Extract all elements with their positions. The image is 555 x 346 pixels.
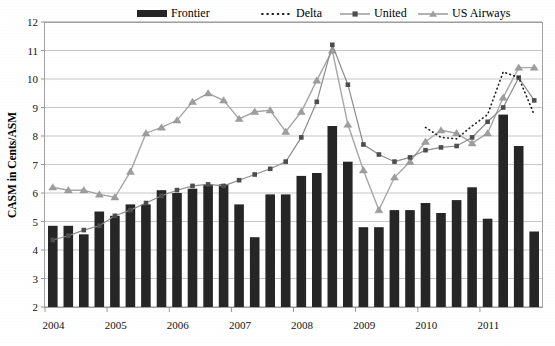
x-tick-label: 2005 [105,319,128,331]
bar [529,232,539,308]
x-tick-label: 2010 [415,319,438,331]
legend-item-united[interactable]: United [340,6,407,20]
square-marker-icon [485,120,490,125]
bar [141,204,151,307]
bar [110,216,120,307]
square-marker-icon [128,208,133,213]
triangle-marker-icon [344,121,352,127]
x-tick-label: 2006 [167,319,190,331]
triangle-marker-icon [375,207,383,213]
bar [250,237,260,307]
triangle-marker-icon [484,130,492,136]
square-marker-icon [51,238,56,243]
square-marker-icon [361,142,366,147]
triangle-marker-icon [313,77,321,83]
legend-label: Delta [296,6,323,20]
square-marker-icon [454,144,459,149]
legend-label: US Airways [452,6,511,20]
square-marker-icon [408,155,413,160]
bar [328,126,338,307]
bar [514,146,524,307]
square-marker-icon [470,135,475,140]
x-tick-label: 2004 [43,319,66,331]
bar [374,227,384,307]
square-marker-icon [392,159,397,164]
square-marker-icon [315,100,320,105]
square-marker-icon [501,105,506,110]
chart-legend: FrontierDeltaUnitedUS Airways [137,6,511,20]
y-tick-label: 4 [33,244,39,256]
bar [297,176,307,307]
triangle-marker-icon [499,94,507,100]
bar [343,162,353,307]
y-tick-label: 7 [33,159,39,171]
bar [312,173,322,307]
y-tick-label: 11 [27,45,38,57]
triangle-marker-icon [49,184,57,190]
square-marker-icon [268,167,273,172]
bar [390,210,400,307]
chart-container: FrontierDeltaUnitedUS Airways 2345678910… [0,0,555,346]
triangle-marker-icon [468,140,476,146]
y-tick-label: 5 [33,216,39,228]
square-marker-icon [353,11,358,16]
y-axis-title: CASM in Cents/ASM [6,112,18,218]
square-marker-icon [144,201,149,206]
x-axis-tick-labels: 20042005200620072008200920102011 [43,307,500,331]
united-line-series [51,43,537,243]
legend-item-delta[interactable]: Delta [262,6,323,20]
triangle-marker-icon [158,124,166,130]
bar [265,194,275,307]
x-tick-label: 2007 [229,319,252,331]
bar [467,187,477,307]
bar [79,234,89,307]
x-tick-label: 2008 [291,319,314,331]
y-tick-label: 8 [33,130,39,142]
square-marker-icon [423,148,428,153]
square-marker-icon [221,184,226,189]
triangle-marker-icon [220,97,228,103]
bar [219,184,229,307]
triangle-marker-icon [189,98,197,104]
y-tick-label: 3 [33,273,39,285]
y-tick-label: 6 [33,187,39,199]
square-marker-icon [97,224,102,229]
y-tick-label: 2 [33,301,39,313]
bar-swatch-icon [137,10,167,17]
legend-item-us-airways[interactable]: US Airways [418,6,511,20]
square-marker-icon [377,152,382,157]
us-airways-line [53,51,534,211]
bar [234,204,244,307]
x-tick-label: 2009 [353,319,376,331]
casm-line-bar-chart: FrontierDeltaUnitedUS Airways 2345678910… [0,0,555,346]
triangle-marker-icon [359,167,367,173]
square-marker-icon [532,98,537,103]
y-tick-label: 9 [33,102,39,114]
square-marker-icon [439,145,444,150]
square-marker-icon [283,159,288,164]
square-marker-icon [190,184,195,189]
united-line [53,45,534,240]
triangle-marker-icon [297,108,305,114]
us-airways-line-series [49,47,538,213]
square-marker-icon [330,43,335,48]
square-marker-icon [113,214,118,219]
triangle-marker-icon [204,90,212,96]
bar [203,184,213,307]
bar [157,190,167,307]
x-tick-label: 2011 [478,319,500,331]
bar [281,194,291,307]
bar [483,219,493,307]
square-marker-icon [237,178,242,183]
bar [498,115,508,307]
square-marker-icon [252,172,257,177]
legend-item-frontier[interactable]: Frontier [137,6,210,20]
square-marker-icon [66,233,71,238]
y-tick-label: 12 [27,16,38,28]
bar [172,193,182,307]
square-marker-icon [299,135,304,140]
triangle-marker-icon [437,127,445,133]
legend-label: Frontier [171,6,210,20]
square-marker-icon [82,228,87,233]
bar [188,189,198,307]
